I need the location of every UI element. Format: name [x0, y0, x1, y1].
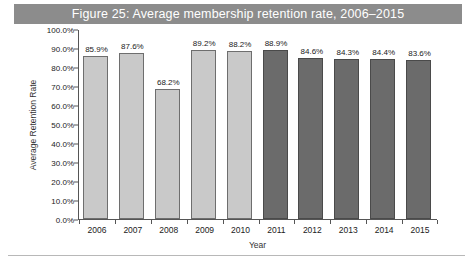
x-axis-tick-label: 2006: [77, 225, 117, 235]
figure-title: Figure 25: Average membership retention …: [72, 7, 405, 21]
x-axis-tick-mark: [366, 220, 367, 224]
y-axis-tick-label: 80.0%: [51, 64, 74, 73]
y-axis-tick-label: 20.0%: [51, 178, 74, 187]
x-axis-tick-mark: [115, 220, 116, 224]
bar-2010[interactable]: [227, 51, 252, 219]
x-axis-tick-label: 2009: [185, 225, 225, 235]
x-axis-title: Year: [78, 240, 437, 250]
y-axis-tick-label: 40.0%: [51, 140, 74, 149]
x-axis-tick-label: 2008: [149, 225, 189, 235]
x-axis-tick-labels: 2006200720082009201020112012201320142015: [78, 225, 437, 239]
y-axis-tick-labels: 0.0%10.0%20.0%30.0%40.0%50.0%60.0%70.0%8…: [30, 30, 78, 220]
bar-value-label: 83.6%: [397, 49, 442, 58]
bar-slot: 84.6%: [294, 30, 330, 220]
chart-area: Average Retention Rate 0.0%10.0%20.0%30.…: [0, 26, 473, 248]
y-axis-tick-label: 0.0%: [56, 216, 74, 225]
x-axis-tick-mark: [294, 220, 295, 224]
x-axis-tick-label: 2015: [400, 225, 440, 235]
bar-2013[interactable]: [334, 59, 359, 219]
bar-slot: 88.2%: [223, 30, 259, 220]
x-axis-tick-mark: [402, 220, 403, 224]
plot-region: 85.9%87.6%68.2%89.2%88.2%88.9%84.6%84.3%…: [78, 30, 437, 220]
bar-value-label: 68.2%: [146, 78, 191, 87]
x-axis-tick-label: 2014: [364, 225, 404, 235]
bar-2008[interactable]: [155, 89, 180, 219]
bar-slot: 83.6%: [402, 30, 438, 220]
y-axis-tick-label: 30.0%: [51, 159, 74, 168]
bar-2009[interactable]: [191, 50, 216, 219]
x-axis-tick-mark: [223, 220, 224, 224]
x-axis-tick-mark: [79, 220, 80, 224]
bar-slot: 84.4%: [366, 30, 402, 220]
x-axis-tick-mark: [187, 220, 188, 224]
bar-2015[interactable]: [406, 60, 431, 219]
y-axis-tick-label: 50.0%: [51, 121, 74, 130]
y-axis-tick-label: 60.0%: [51, 102, 74, 111]
bar-2012[interactable]: [298, 58, 323, 219]
figure-title-banner: Figure 25: Average membership retention …: [14, 4, 462, 24]
y-axis-tick-label: 90.0%: [51, 45, 74, 54]
x-axis-tick-label: 2013: [328, 225, 368, 235]
bar-slot: 84.3%: [330, 30, 366, 220]
bar-2007[interactable]: [119, 53, 144, 219]
page-divider-rule: [8, 255, 465, 256]
bar-2014[interactable]: [370, 59, 395, 219]
bar-slot: 68.2%: [151, 30, 187, 220]
y-axis-tick-label: 70.0%: [51, 83, 74, 92]
bar-slot: 85.9%: [79, 30, 115, 220]
bar-slot: 87.6%: [115, 30, 151, 220]
x-axis-tick-mark: [437, 220, 438, 224]
bar-2011[interactable]: [263, 50, 288, 219]
x-axis-tick-mark: [330, 220, 331, 224]
figure-container: Figure 25: Average membership retention …: [0, 0, 473, 269]
x-axis-tick-label: 2012: [292, 225, 332, 235]
y-axis-tick-label: 10.0%: [51, 197, 74, 206]
x-axis-tick-mark: [259, 220, 260, 224]
y-axis-tick-label: 100.0%: [47, 26, 74, 35]
x-axis-tick-label: 2007: [113, 225, 153, 235]
bar-2006[interactable]: [83, 56, 108, 219]
bar-slot: 89.2%: [187, 30, 223, 220]
x-axis-tick-label: 2010: [221, 225, 261, 235]
x-axis-tick-label: 2011: [256, 225, 296, 235]
bar-value-label: 87.6%: [110, 42, 155, 51]
x-axis-tick-mark: [151, 220, 152, 224]
bar-slot: 88.9%: [259, 30, 295, 220]
